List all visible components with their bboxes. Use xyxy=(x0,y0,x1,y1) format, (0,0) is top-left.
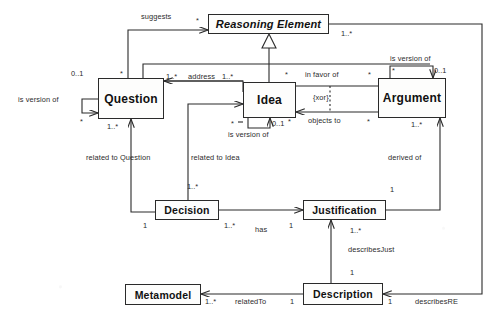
multiplicity-re-right: 1..* xyxy=(341,29,352,38)
association-label-is-version-of-idea: is version of xyxy=(228,130,269,139)
class-name-justification: Justification xyxy=(312,204,376,216)
class-box-metamodel[interactable]: Metamodel xyxy=(125,284,201,305)
edge-argument-version-of xyxy=(390,66,433,78)
multiplicity-idea-loop-left: * xyxy=(231,119,234,128)
multiplicity-argument-in-favor: * xyxy=(368,70,371,79)
constraint-label-xor: {xor} xyxy=(313,93,329,102)
multiplicity-description-re: 1 xyxy=(388,297,392,306)
multiplicity-argument-bottom: 1..* xyxy=(411,120,422,129)
multiplicity-description-related: 1 xyxy=(290,297,294,306)
association-label-describes-re: describesRE xyxy=(415,297,458,306)
association-label-is-version-of-argument: is version of xyxy=(390,54,431,63)
multiplicity-argument-loop-left: * xyxy=(392,66,395,75)
edge-address-upper xyxy=(164,81,243,92)
class-box-idea[interactable]: Idea xyxy=(243,82,296,118)
multiplicity-description-describes: 1 xyxy=(350,268,354,277)
class-box-description[interactable]: Description xyxy=(303,283,383,305)
multiplicity-justification-describes: 1..* xyxy=(350,226,361,235)
class-box-argument[interactable]: Argument xyxy=(378,78,446,118)
multiplicity-question-bottom: 1..* xyxy=(107,122,118,131)
association-label-objects-to: objects to xyxy=(308,116,341,125)
class-name-argument: Argument xyxy=(383,91,441,105)
association-label-address: address xyxy=(188,72,215,81)
multiplicity-question-loop: * xyxy=(80,117,83,126)
multiplicity-argument-objects-to: * xyxy=(367,117,370,126)
class-name-description: Description xyxy=(313,288,373,300)
association-label-related-to: relatedTo xyxy=(235,297,266,306)
association-label-is-version-of-question: is version of xyxy=(18,95,59,104)
class-name-decision: Decision xyxy=(164,204,209,216)
uml-class-diagram: Reasoning Element Question Idea Argument… xyxy=(0,0,504,326)
class-name-reasoning-element: Reasoning Element xyxy=(216,18,321,30)
edge-idea-version-of xyxy=(248,118,270,128)
association-label-suggests: suggests xyxy=(141,12,171,21)
class-name-question: Question xyxy=(104,92,158,106)
class-box-question[interactable]: Question xyxy=(98,78,164,119)
multiplicity-argument-loop-right: 0..1 xyxy=(434,66,446,75)
multiplicity-justification-derived: 1 xyxy=(390,185,394,194)
class-name-metamodel: Metamodel xyxy=(135,289,192,301)
multiplicity-question-left: 0..1 xyxy=(71,69,83,78)
multiplicity-idea-objects-to: * xyxy=(288,117,291,126)
multiplicity-re-left: * xyxy=(196,16,199,25)
edge-related-to-question xyxy=(131,119,155,212)
multiplicity-metamodel-related: 1..* xyxy=(205,297,216,306)
diagram-connectors xyxy=(0,0,504,326)
association-label-derived-of: derived of xyxy=(388,153,421,162)
multiplicity-idea-address: 1..* xyxy=(222,72,233,81)
multiplicity-question-top: * xyxy=(120,69,123,78)
multiplicity-decision-has: 1..* xyxy=(224,221,235,230)
association-label-related-to-idea: related to Idea xyxy=(191,153,240,162)
multiplicity-idea-loop-right: 0..1 xyxy=(272,119,284,128)
edge-suggests xyxy=(128,30,208,78)
association-label-has: has xyxy=(255,225,267,234)
generalization-triangle xyxy=(262,34,276,48)
multiplicity-decision-left: 1 xyxy=(143,221,147,230)
multiplicity-idea-in-favor: * xyxy=(285,70,288,79)
edge-question-version-of xyxy=(82,99,98,113)
association-label-related-to-question: related to Question xyxy=(86,153,150,162)
class-box-reasoning-element[interactable]: Reasoning Element xyxy=(208,14,329,34)
multiplicity-justification-has: 1 xyxy=(289,221,293,230)
multiplicity-question-address: 1..* xyxy=(166,72,177,81)
association-label-in-favor-of: in favor of xyxy=(305,70,339,79)
multiplicity-decision-top: 1..* xyxy=(187,182,198,191)
class-name-idea: Idea xyxy=(257,93,282,107)
association-label-describes-just: describesJust xyxy=(348,245,395,254)
edge-derived-of xyxy=(386,118,440,210)
class-box-justification[interactable]: Justification xyxy=(303,200,386,220)
class-box-decision[interactable]: Decision xyxy=(155,200,219,220)
